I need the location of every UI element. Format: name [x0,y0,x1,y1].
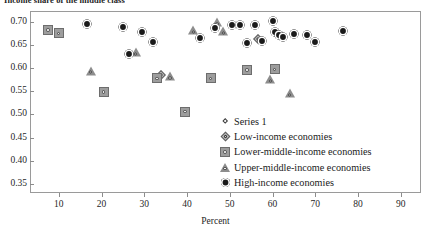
data-point-lower-middle-income [270,64,280,74]
data-point-high-income [82,20,91,29]
y-axis-tick-mark [30,22,34,23]
x-axis-title: Percent [0,216,431,226]
data-point-upper-middle-income [86,66,96,75]
legend-item-label: Series 1 [232,116,267,127]
x-axis-tick-mark [273,193,274,197]
x-axis-tick-label: 60 [258,199,288,209]
legend-item-label: Lower-middle-income economies [232,146,372,157]
y-axis-tick-mark [30,68,34,69]
data-point-high-income [148,37,157,46]
chart-figure: Income share of the middle class 0.350.4… [0,0,431,241]
x-axis-tick-labels: 102030405060708090 [0,199,431,211]
data-point-upper-middle-income [265,75,275,84]
y-axis-tick-label: 0.60 [1,63,27,73]
data-point-high-income [195,34,204,43]
legend-item-series1[interactable]: Series 1 [218,114,418,129]
legend-item-label: High-income economies [232,177,334,188]
x-axis-tick-mark [401,193,402,197]
data-point-high-income [279,33,288,42]
legend-marker-icon [218,145,232,159]
y-axis-tick-label: 0.50 [1,109,27,119]
y-axis-tick-label: 0.45 [1,133,27,143]
data-point-lower-middle-income [43,25,53,35]
data-point-upper-middle-income [285,89,295,98]
y-axis-tick-mark [30,91,34,92]
x-axis-tick-mark [230,193,231,197]
data-point-lower-middle-income [242,65,252,75]
chart-legend: Series 1Low-income economiesLower-middle… [218,114,418,190]
legend-marker-icon [218,115,232,129]
y-axis-tick-mark [30,184,34,185]
data-point-high-income [302,31,311,40]
x-axis-tick-label: 90 [386,199,416,209]
data-point-high-income [138,28,147,37]
x-axis-tick-label: 70 [300,199,330,209]
data-point-high-income [289,30,298,39]
y-axis-tick-label: 0.35 [1,179,27,189]
x-axis-tick-label: 80 [343,199,373,209]
x-axis-tick-label: 20 [87,199,117,209]
x-axis-tick-mark [358,193,359,197]
legend-item-label: Upper-middle-income economies [232,162,370,173]
x-axis-tick-mark [187,193,188,197]
legend-item-uppermid[interactable]: Upper-middle-income economies [218,160,418,175]
legend-marker-icon [218,130,232,144]
data-point-high-income [118,23,127,32]
legend-marker-icon [218,175,232,189]
data-point-upper-middle-income [218,26,228,35]
data-point-lower-middle-income [99,87,109,97]
y-axis-tick-mark [30,114,34,115]
data-point-high-income [339,27,348,36]
legend-item-high[interactable]: High-income economies [218,175,418,190]
legend-item-low[interactable]: Low-income economies [218,129,418,144]
legend-swatch [221,178,230,187]
data-point-lower-middle-income [152,73,162,83]
y-axis-tick-label: 0.65 [1,40,27,50]
data-point-lower-middle-income [206,73,216,83]
y-axis-tick-label: 0.55 [1,86,27,96]
legend-swatch [222,118,228,124]
y-axis-tick-mark [30,138,34,139]
data-point-high-income [257,37,266,46]
legend-swatch [220,147,230,157]
x-axis-tick-mark [102,193,103,197]
data-point-high-income [268,16,277,25]
y-axis-tick-mark [30,45,34,46]
data-point-upper-middle-income [165,72,175,81]
x-axis-tick-label: 40 [172,199,202,209]
data-point-high-income [236,21,245,30]
legend-marker-icon [218,160,232,174]
data-point-high-income [210,23,219,32]
x-axis-tick-mark [144,193,145,197]
data-point-high-income [125,50,134,59]
data-point-high-income [311,37,320,46]
data-point-high-income [242,38,251,47]
legend-swatch [220,163,230,172]
legend-item-lowermid[interactable]: Lower-middle-income economies [218,144,418,159]
x-axis-tick-mark [59,193,60,197]
x-axis-tick-label: 10 [44,199,74,209]
y-axis-tick-label: 0.70 [1,17,27,27]
legend-swatch [220,132,230,142]
y-axis-tick-mark [30,161,34,162]
x-axis-tick-label: 50 [215,199,245,209]
data-point-lower-middle-income [54,28,64,38]
data-point-high-income [251,21,260,30]
x-axis-tick-mark [315,193,316,197]
data-point-lower-middle-income [180,107,190,117]
y-axis-tick-label: 0.40 [1,156,27,166]
x-axis-tick-label: 30 [129,199,159,209]
legend-item-label: Low-income economies [232,131,332,142]
